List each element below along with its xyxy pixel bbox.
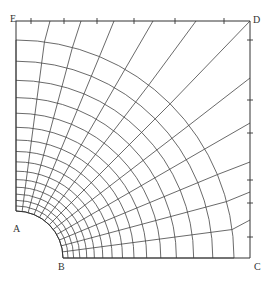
- mesh-lines: [16, 21, 250, 258]
- label-a: A: [13, 224, 20, 234]
- mesh-diagram: [0, 0, 272, 282]
- label-d: D: [253, 15, 260, 25]
- label-e: E: [10, 14, 16, 24]
- label-b: B: [58, 262, 65, 272]
- label-c: C: [254, 262, 261, 272]
- edge-ticks: [31, 18, 253, 237]
